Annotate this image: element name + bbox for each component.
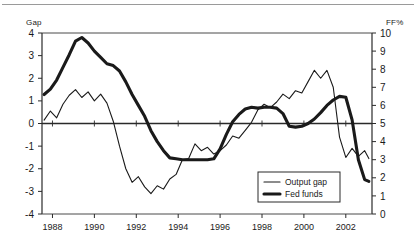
right-axis-tick-label: 1 — [380, 191, 386, 202]
right-axis-tick-label: 2 — [380, 172, 386, 183]
x-axis-tick-label: 1992 — [126, 222, 146, 232]
left-axis-tick-label: 0 — [28, 118, 34, 129]
right-axis-tick-label: 10 — [380, 28, 392, 39]
x-axis-tick-label: 1990 — [84, 222, 104, 232]
chart-figure: Gap FF% 43210-1-2-3-41098765432101988199… — [0, 0, 418, 246]
series-line-fed-funds — [44, 38, 369, 182]
right-axis-tick-label: 8 — [380, 64, 386, 75]
left-axis-tick-label: -4 — [25, 209, 34, 220]
x-axis-tick-label: 1988 — [42, 222, 62, 232]
left-axis-tick-label: -3 — [25, 186, 34, 197]
series-group — [44, 38, 369, 194]
right-axis-tick-label: 5 — [380, 118, 386, 129]
right-axis-tick-label: 7 — [380, 82, 386, 93]
right-axis-tick-label: 0 — [380, 209, 386, 220]
right-axis-tick-label: 9 — [380, 46, 386, 57]
chart-plot-area: 43210-1-2-3-4109876543210198819901992199… — [0, 0, 418, 246]
legend-label-output-gap: Output gap — [285, 177, 327, 187]
x-axis-tick-label: 1994 — [168, 222, 188, 232]
x-axis-tick-label: 1998 — [252, 222, 272, 232]
right-axis-tick-label: 4 — [380, 136, 386, 147]
x-axis-tick-label: 1996 — [210, 222, 230, 232]
x-axis-tick-label: 2000 — [294, 222, 314, 232]
x-axis-tick-label: 2002 — [336, 222, 356, 232]
left-axis-tick-label: -2 — [25, 163, 34, 174]
right-axis-tick-label: 6 — [380, 100, 386, 111]
right-axis-tick-label: 3 — [380, 154, 386, 165]
left-axis-tick-label: 3 — [28, 50, 34, 61]
legend-box: Output gapFed funds — [258, 172, 340, 202]
left-axis-tick-label: 2 — [28, 73, 34, 84]
legend-label-fed-funds: Fed funds — [285, 189, 323, 199]
left-axis-tick-label: -1 — [25, 141, 34, 152]
left-axis-tick-label: 1 — [28, 95, 34, 106]
left-axis-tick-label: 4 — [28, 28, 34, 39]
